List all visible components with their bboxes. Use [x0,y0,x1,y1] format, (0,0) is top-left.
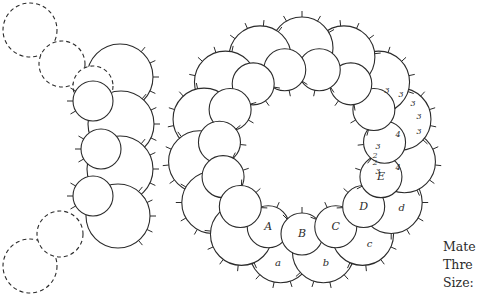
chain-picot [433,147,438,149]
stitch-count: 3 [375,167,380,176]
chain-picot [168,126,174,127]
chain-picot [407,229,410,234]
ring-picot [78,159,83,162]
chain-picot [369,35,374,39]
chain-picot [238,265,239,271]
left-edging-strip [3,3,160,293]
ring-picot [350,120,355,123]
stitch-count: 3 [416,112,421,121]
chain-picot [214,47,216,53]
chain-picot [194,229,197,234]
chain-picot [391,247,396,249]
chain-picot [435,165,441,166]
stitch-count: 2 [371,158,377,167]
chain-picot [340,20,341,26]
chain-picot [230,35,235,39]
ring-picot [314,90,315,96]
chain-picot [318,16,321,21]
chain-picot [330,282,331,288]
ring-label-b: B [297,227,306,240]
chain-picot [208,247,213,249]
chain-picot [147,200,152,203]
chain-label-b: b [323,257,329,268]
chain-picot [402,57,406,61]
materials-legend: Mate Thre Size: [443,238,476,292]
ring-picot [78,136,83,139]
chain-label-c: c [367,238,373,249]
ring-picot [243,168,249,170]
ring-label-c: C [332,220,341,233]
chain-picot [205,230,211,231]
ring-picot [355,168,361,170]
chain-picot [273,282,274,288]
stitch-count: 3 [398,90,403,99]
chain-picot [151,108,156,111]
chain-picot [366,265,367,271]
chain-picot [381,259,385,264]
chain-picot [151,138,156,141]
chain-picot [429,108,435,110]
chain-picot [150,61,155,64]
chain-picot [375,53,381,54]
chain-label-a: a [275,257,281,268]
ring-picot [256,188,260,192]
chain-picot [409,74,415,75]
ring-picot [289,90,290,96]
chain-picot [418,218,423,221]
edging-ring [73,81,113,121]
chain-picot [150,91,155,94]
chain-picot [181,218,186,221]
legend-material: Mate [443,238,476,256]
chain-picot [220,259,224,264]
stitch-count: 3 [375,142,380,151]
ring-picot [248,120,253,123]
chain-picot [388,47,390,53]
chain-picot [179,92,183,96]
ring-picot [70,206,75,209]
chain-picot [421,92,425,96]
ring-picot [344,188,348,192]
chain-picot [150,153,155,156]
ring-picot [358,145,364,146]
chain-picot [263,20,264,26]
ring-picot [325,202,327,207]
edging-ring [81,129,121,169]
ring-picot [70,183,75,186]
dashed-ring [37,211,83,257]
chain-picot [147,230,152,233]
chain-picot [198,57,202,61]
ring-label-d: D [358,200,368,213]
chain-picot [284,16,287,21]
legend-thread: Thre [443,256,476,274]
ring-picot [266,101,270,106]
edging-ring [73,176,113,216]
ring-label-a: A [263,220,272,233]
chain-picot [430,126,436,127]
chain-picot [312,281,314,287]
stitch-count: 4 [394,163,400,172]
tatting-diagram: ABCDEabcd33333443223 [0,0,478,297]
ring-picot [277,202,279,207]
chain-picot [357,23,359,28]
stitch-count: 4 [394,130,400,139]
chain-picot [189,74,195,75]
chain-picot [344,275,348,279]
chain-picot [139,241,143,246]
chain-picot [290,281,292,287]
chain-picot [169,108,175,110]
stitch-count: 3 [384,86,389,95]
chain-picot [150,183,155,186]
chain-label-d: d [398,202,404,213]
chain-picot [245,23,247,28]
chain-picot [256,275,260,279]
chain-picot [430,180,435,184]
stitch-count: 3 [410,99,415,108]
ring-picot [335,101,339,106]
chain-picot [141,47,145,52]
chain-picot [166,147,171,149]
ring-picot [70,111,75,114]
chain-picot [163,165,169,166]
stitch-count: 3 [416,127,421,136]
ring-picot [240,145,246,146]
legend-size: Size: [443,274,476,292]
